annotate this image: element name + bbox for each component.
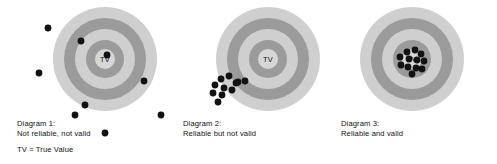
- measurement-dot: [412, 47, 419, 54]
- measurement-dot: [413, 65, 420, 72]
- measurement-dot: [409, 71, 416, 78]
- measurement-dot: [421, 58, 428, 65]
- diagram-3-target: TV: [0, 0, 497, 164]
- diagram-3-caption-subtitle: Reliable and valid: [341, 129, 403, 139]
- diagram-3-caption: Diagram 3: Reliable and valid: [341, 119, 403, 140]
- measurement-dot: [418, 51, 425, 58]
- measurement-dot: [405, 64, 412, 71]
- reliability-validity-figure: TV Diagram 1: Not reliable, not valid TV…: [0, 0, 497, 164]
- measurement-dot: [397, 54, 404, 61]
- measurement-dot: [404, 49, 411, 56]
- measurement-dot: [419, 66, 426, 73]
- measurement-dot: [406, 56, 413, 63]
- diagram-3-caption-title: Diagram 3:: [341, 119, 403, 129]
- measurement-dot: [414, 57, 421, 64]
- true-value-legend: TV = True Value: [17, 145, 73, 155]
- measurement-dot: [398, 62, 405, 69]
